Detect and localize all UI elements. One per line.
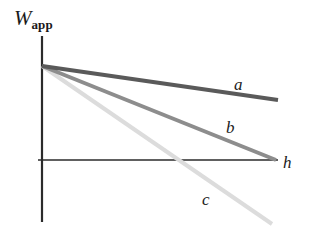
curve-line-a (42, 66, 278, 100)
y-axis-label-subscript: app (32, 17, 53, 32)
curve-label-c: c (202, 191, 210, 208)
x-axis-label: h (283, 154, 292, 171)
plot-canvas (0, 0, 310, 234)
curve-label-b: b (226, 119, 235, 136)
physics-plot-figure: Wapp a b c h (0, 0, 310, 234)
y-axis-label: Wapp (14, 8, 53, 31)
y-axis-label-base: W (14, 6, 32, 30)
curve-label-a: a (234, 76, 243, 93)
